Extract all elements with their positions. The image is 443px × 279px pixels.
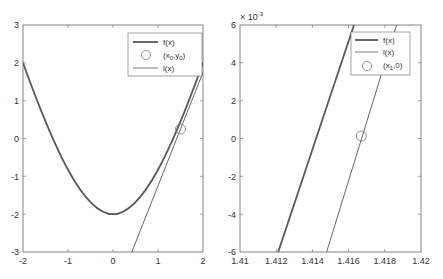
right-ytick: 6 <box>231 20 236 30</box>
left-xtick: 0 <box>110 256 115 266</box>
left-xtick: -2 <box>19 256 27 266</box>
right-xtick: 1.414 <box>301 256 324 266</box>
left-legend: f(x) (x0,y0) l(x) <box>128 33 202 76</box>
right-y-exponent: × 10-3 <box>240 11 264 22</box>
left-ytick: -2 <box>11 210 19 220</box>
right-ytick: -4 <box>228 210 236 220</box>
left-ytick: -1 <box>11 172 19 182</box>
right-xtick: 1.412 <box>265 256 288 266</box>
left-ytick: -3 <box>11 247 19 257</box>
right-ytick: 0 <box>231 134 236 144</box>
right-ytick: 2 <box>231 96 236 106</box>
right-xtick: 1.418 <box>374 256 397 266</box>
right-legend-point: (x1,0) <box>383 61 403 71</box>
right-ytick: 4 <box>231 58 236 68</box>
left-ytick: 1 <box>14 96 19 106</box>
right-ytick: -6 <box>228 247 236 257</box>
right-legend: f(x) l(x) (x1,0) <box>351 32 410 75</box>
left-xtick: -1 <box>64 256 72 266</box>
right-plot: 1.41 1.412 1.414 1.416 1.418 1.42 6 4 2 … <box>228 11 430 266</box>
left-legend-point: (x0,y0) <box>163 51 186 61</box>
left-ytick: 0 <box>14 134 19 144</box>
right-xtick: 1.41 <box>231 256 249 266</box>
right-xtick: 1.416 <box>337 256 360 266</box>
left-ytick: 2 <box>14 58 19 68</box>
right-ytick: -2 <box>228 172 236 182</box>
left-plot: -2 -1 0 1 2 3 2 1 0 -1 -2 -3 f(x) (x0,y0… <box>11 20 206 266</box>
right-legend-l: l(x) <box>383 48 394 57</box>
right-legend-f: f(x) <box>383 36 395 45</box>
figure: -2 -1 0 1 2 3 2 1 0 -1 -2 -3 f(x) (x0,y0… <box>0 0 443 279</box>
left-legend-f: f(x) <box>163 38 175 47</box>
left-ytick: 3 <box>14 20 19 30</box>
right-xtick: 1.42 <box>412 256 430 266</box>
left-xtick: 2 <box>200 256 205 266</box>
left-legend-l: l(x) <box>163 64 174 73</box>
left-xtick: 1 <box>155 256 160 266</box>
